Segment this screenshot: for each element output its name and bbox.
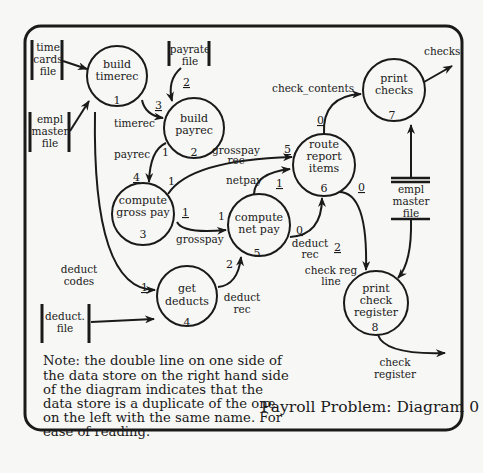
svg-text:deduct.: deduct. [45, 310, 85, 322]
svg-text:3: 3 [140, 228, 147, 241]
svg-text:1: 1 [218, 210, 225, 223]
flow-label-netpay: netpay [226, 174, 262, 186]
svg-text:register: register [354, 306, 399, 319]
flow-label-grosspay: grosspay [176, 233, 224, 245]
svg-text:4: 4 [184, 316, 191, 329]
svg-text:payrate: payrate [170, 43, 211, 55]
flow-label-check-register: check [379, 356, 411, 368]
svg-text:file: file [403, 207, 420, 219]
store-deduct-file: deduct. file [42, 304, 89, 343]
svg-text:file: file [182, 55, 199, 67]
svg-text:0: 0 [358, 181, 365, 194]
store-time-cards-file: time cards file [32, 40, 63, 80]
svg-text:items: items [309, 162, 340, 175]
svg-text:2: 2 [226, 258, 233, 271]
svg-text:on the left with the same name: on the left with the same name. For [43, 410, 283, 425]
flow-label-timerec: timerec [114, 117, 155, 129]
svg-text:the data store on the right ha: the data store on the right hand side [43, 368, 289, 383]
svg-text:master: master [31, 125, 69, 137]
svg-text:file: file [40, 65, 57, 77]
svg-text:4: 4 [133, 171, 140, 184]
svg-text:3: 3 [155, 99, 162, 112]
svg-text:cards: cards [33, 53, 62, 65]
svg-text:payrec: payrec [175, 124, 213, 137]
svg-text:0: 0 [317, 114, 324, 127]
store-empl-master-file-right: empl master file [391, 178, 431, 219]
svg-text:ease of reading.: ease of reading. [43, 424, 150, 439]
process-compute-net-pay: compute net pay 5 [228, 194, 290, 260]
svg-text:codes: codes [64, 275, 95, 287]
svg-text:rec: rec [227, 154, 244, 166]
process-print-check-register: print check register 8 [344, 271, 408, 335]
flow-label-check-contents: check_contents [272, 82, 354, 95]
svg-text:8: 8 [372, 321, 379, 334]
svg-text:timerec: timerec [96, 70, 139, 83]
svg-text:1: 1 [114, 94, 121, 107]
svg-text:get: get [178, 282, 197, 295]
flow-label-checks: checks [424, 45, 461, 57]
svg-text:line: line [321, 275, 341, 287]
svg-text:7: 7 [389, 109, 396, 122]
svg-text:empl: empl [398, 183, 425, 195]
payroll-dfd-diagram: time cards file empl master file payrate… [0, 0, 483, 473]
svg-text:1: 1 [182, 206, 189, 219]
svg-text:6: 6 [321, 182, 328, 195]
svg-text:0: 0 [296, 224, 303, 237]
diagram-note: Note: the double line on one side of the… [43, 353, 289, 439]
svg-text:time: time [36, 41, 60, 53]
svg-text:file: file [42, 137, 59, 149]
svg-text:of the diagram indicates that: of the diagram indicates that the [43, 382, 263, 397]
svg-text:deducts: deducts [165, 295, 209, 308]
process-route-report-items: route report items 6 [293, 134, 355, 196]
svg-text:file: file [57, 322, 74, 334]
diagram-title: Payroll Problem: Diagram 0 [261, 398, 479, 416]
flow-label-deduct-rec-lower: deduct [224, 291, 261, 303]
svg-text:rec: rec [301, 248, 318, 260]
svg-text:checks: checks [375, 84, 414, 97]
store-payrate-file: payrate file [169, 41, 210, 67]
svg-text:2: 2 [334, 241, 341, 254]
svg-text:2: 2 [191, 146, 198, 159]
svg-text:1: 1 [168, 175, 175, 188]
svg-text:2: 2 [183, 76, 190, 89]
svg-text:gross pay: gross pay [116, 206, 170, 219]
svg-text:data store is a duplicate of t: data store is a duplicate of the one [43, 396, 276, 411]
flow-label-payrec: payrec [114, 148, 150, 160]
svg-text:net pay: net pay [238, 223, 280, 236]
svg-text:1: 1 [276, 177, 283, 190]
svg-text:empl: empl [37, 113, 64, 125]
process-compute-gross-pay: compute gross pay 3 [112, 183, 174, 245]
svg-text:1: 1 [162, 146, 169, 159]
process-get-deducts: get deducts 4 [157, 266, 217, 329]
svg-text:1: 1 [141, 281, 148, 294]
svg-text:master: master [392, 195, 430, 207]
store-empl-master-file-left: empl master file [30, 112, 70, 152]
process-build-timerec: build timerec 1 [87, 46, 147, 107]
svg-text:Note: the double line on one s: Note: the double line on one side of [43, 353, 283, 368]
flow-label-deduct-codes: deduct [61, 263, 98, 275]
process-print-checks: print checks 7 [363, 59, 425, 122]
svg-text:register: register [374, 368, 417, 380]
svg-text:rec: rec [233, 303, 250, 315]
svg-text:5: 5 [284, 143, 291, 156]
svg-text:5: 5 [254, 247, 261, 260]
